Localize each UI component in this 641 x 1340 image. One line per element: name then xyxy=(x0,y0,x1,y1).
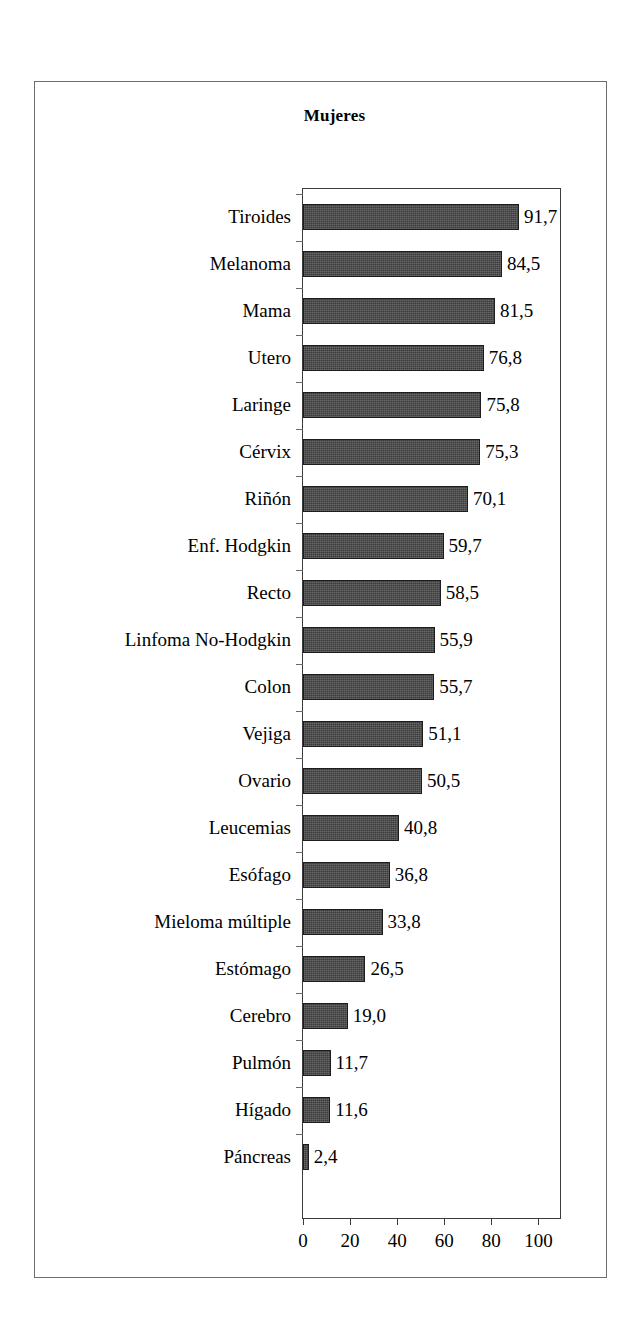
bar-rows: Tiroides91,7Melanoma84,5Mama81,5Utero76,… xyxy=(303,189,560,1218)
bar xyxy=(303,298,495,324)
bar-value-label: 55,9 xyxy=(435,627,473,653)
category-label: Cerebro xyxy=(63,1003,303,1029)
y-axis-tick xyxy=(296,946,303,947)
category-label: Vejiga xyxy=(63,721,303,747)
category-label: Pulmón xyxy=(63,1050,303,1076)
category-label: Tiroides xyxy=(63,204,303,230)
y-axis-tick xyxy=(296,805,303,806)
bar-value-label: 33,8 xyxy=(383,909,421,935)
bar-value-label: 70,1 xyxy=(468,486,506,512)
category-label: Leucemias xyxy=(63,815,303,841)
category-label: Mama xyxy=(63,298,303,324)
bar xyxy=(303,674,434,700)
bar xyxy=(303,392,481,418)
y-axis-tick xyxy=(296,335,303,336)
category-label: Estómago xyxy=(63,956,303,982)
y-axis-tick xyxy=(296,288,303,289)
y-axis-tick xyxy=(296,1040,303,1041)
bar xyxy=(303,486,468,512)
category-label: Enf. Hodgkin xyxy=(63,533,303,559)
x-axis-tick-label: 100 xyxy=(508,1230,568,1252)
bar-value-label: 55,7 xyxy=(434,674,472,700)
category-label: Mieloma múltiple xyxy=(63,909,303,935)
bar-value-label: 40,8 xyxy=(399,815,437,841)
category-label: Cérvix xyxy=(63,439,303,465)
y-axis-tick xyxy=(296,1087,303,1088)
y-axis-tick xyxy=(296,570,303,571)
y-axis-tick xyxy=(296,711,303,712)
bar-value-label: 50,5 xyxy=(422,768,460,794)
y-axis-tick xyxy=(296,429,303,430)
bar-row: Melanoma84,5 xyxy=(303,241,560,288)
bar xyxy=(303,956,365,982)
plot-area: Tiroides91,7Melanoma84,5Mama81,5Utero76,… xyxy=(302,188,561,1219)
bar xyxy=(303,862,390,888)
bar-row: Linfoma No-Hodgkin55,9 xyxy=(303,617,560,664)
bar-row: Laringe75,8 xyxy=(303,382,560,429)
bar-value-label: 36,8 xyxy=(390,862,428,888)
y-axis-tick xyxy=(296,382,303,383)
bar xyxy=(303,1050,331,1076)
category-label: Melanoma xyxy=(63,251,303,277)
bar-value-label: 11,7 xyxy=(331,1050,369,1076)
y-axis-tick xyxy=(296,194,303,195)
x-axis-tick xyxy=(397,1218,398,1225)
y-axis-tick xyxy=(296,899,303,900)
bar-row: Tiroides91,7 xyxy=(303,194,560,241)
y-axis-tick xyxy=(296,241,303,242)
bar-value-label: 81,5 xyxy=(495,298,533,324)
category-label: Riñón xyxy=(63,486,303,512)
y-axis-tick xyxy=(296,758,303,759)
bar-row: Esófago36,8 xyxy=(303,852,560,899)
bar-row: Mieloma múltiple33,8 xyxy=(303,899,560,946)
bar-row: Cerebro19,0 xyxy=(303,993,560,1040)
bar-row: Pulmón11,7 xyxy=(303,1040,560,1087)
bar-row: Estómago26,5 xyxy=(303,946,560,993)
bar-value-label: 51,1 xyxy=(423,721,461,747)
bar-row: Utero76,8 xyxy=(303,335,560,382)
bar-row: Hígado11,6 xyxy=(303,1087,560,1134)
x-axis-tick xyxy=(491,1218,492,1225)
bar-value-label: 11,6 xyxy=(330,1097,368,1123)
bar-row: Recto58,5 xyxy=(303,570,560,617)
bar-row: Enf. Hodgkin59,7 xyxy=(303,523,560,570)
category-label: Ovario xyxy=(63,768,303,794)
bar-value-label: 26,5 xyxy=(365,956,403,982)
bar-row: Páncreas2,4 xyxy=(303,1134,560,1181)
bar-value-label: 2,4 xyxy=(309,1144,338,1170)
category-label: Utero xyxy=(63,345,303,371)
bar xyxy=(303,204,519,230)
category-label: Páncreas xyxy=(63,1144,303,1170)
y-axis-tick xyxy=(296,476,303,477)
bar-value-label: 19,0 xyxy=(348,1003,386,1029)
category-label: Colon xyxy=(63,674,303,700)
category-label: Linfoma No-Hodgkin xyxy=(63,627,303,653)
bar xyxy=(303,345,484,371)
y-axis-tick xyxy=(296,664,303,665)
x-axis-tick xyxy=(538,1218,539,1225)
bar-value-label: 75,8 xyxy=(481,392,519,418)
bar xyxy=(303,1097,330,1123)
bar xyxy=(303,533,444,559)
bar-row: Ovario50,5 xyxy=(303,758,560,805)
y-axis-tick xyxy=(296,993,303,994)
bar-value-label: 75,3 xyxy=(480,439,518,465)
bar xyxy=(303,815,399,841)
bar xyxy=(303,721,423,747)
category-label: Esófago xyxy=(63,862,303,888)
category-label: Laringe xyxy=(63,392,303,418)
bar-row: Riñón70,1 xyxy=(303,476,560,523)
bar-row: Vejiga51,1 xyxy=(303,711,560,758)
bar-value-label: 59,7 xyxy=(444,533,482,559)
y-axis-tick xyxy=(296,523,303,524)
bar xyxy=(303,580,441,606)
bar-row: Mama81,5 xyxy=(303,288,560,335)
category-label: Recto xyxy=(63,580,303,606)
figure-frame: Mujeres Tiroides91,7Melanoma84,5Mama81,5… xyxy=(34,81,607,1278)
bar xyxy=(303,909,383,935)
bar xyxy=(303,768,422,794)
y-axis-tick xyxy=(296,852,303,853)
y-axis-tick xyxy=(296,1134,303,1135)
bar-value-label: 58,5 xyxy=(441,580,479,606)
chart-title: Mujeres xyxy=(35,106,606,126)
